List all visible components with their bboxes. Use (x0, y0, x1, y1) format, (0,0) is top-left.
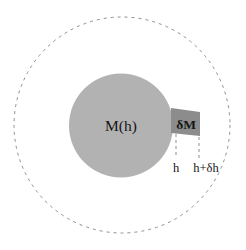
figure-canvas: M(h) δM h h+δh (0, 0, 246, 250)
shell-mass-label: δM (176, 117, 196, 132)
inner-radius-label: h (173, 161, 180, 175)
outer-radius-label: h+δh (193, 161, 219, 175)
enclosed-mass-label: M(h) (105, 117, 137, 135)
mass-shell-figure: M(h) δM h h+δh (0, 0, 246, 250)
